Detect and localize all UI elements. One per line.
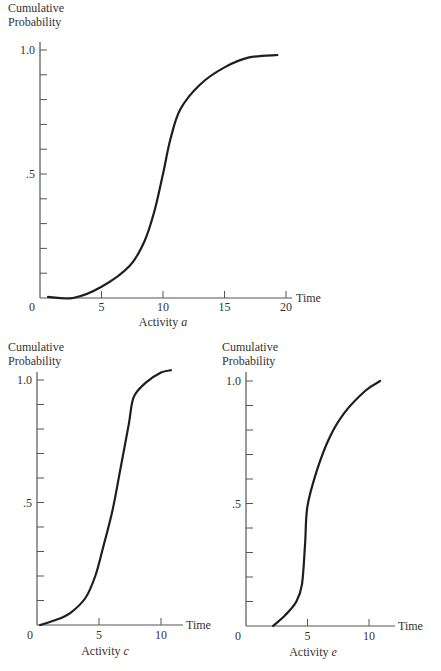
y-tick-label: 1.0 bbox=[17, 373, 32, 387]
cdf-curve bbox=[40, 370, 171, 625]
x-tick-label: 5 bbox=[305, 629, 311, 643]
figure-canvas: Cumulative Probability Time Activity a .… bbox=[0, 0, 441, 671]
y-tick-label: .5 bbox=[232, 497, 241, 511]
y-axis-label-line1: Cumulative bbox=[222, 340, 278, 354]
axes: .51.00510 bbox=[226, 372, 395, 643]
x-tick-label: 20 bbox=[280, 300, 292, 314]
x-axis-label: Time bbox=[296, 291, 321, 305]
y-tick-label: 1.0 bbox=[226, 374, 241, 388]
x-tick-label: 10 bbox=[363, 629, 375, 643]
caption: Activity e bbox=[289, 645, 337, 659]
y-axis-label-line2: Probability bbox=[8, 354, 61, 368]
origin-label: 0 bbox=[27, 628, 33, 642]
axes: .51.00510 bbox=[17, 372, 183, 642]
axes: .51.005101520 bbox=[20, 42, 292, 314]
x-axis-label: Time bbox=[186, 618, 211, 632]
y-axis-label-line1: Cumulative bbox=[8, 1, 64, 15]
origin-label: 0 bbox=[29, 300, 35, 314]
origin-label: 0 bbox=[235, 629, 241, 643]
x-tick-label: 5 bbox=[99, 300, 105, 314]
chart-activity-e: Cumulative Probability Time Activity e .… bbox=[222, 340, 423, 659]
x-tick-label: 10 bbox=[155, 628, 167, 642]
y-tick-label: .5 bbox=[26, 167, 35, 181]
y-tick-label: .5 bbox=[23, 496, 32, 510]
x-tick-label: 15 bbox=[219, 300, 231, 314]
chart-activity-a: Cumulative Probability Time Activity a .… bbox=[8, 1, 321, 329]
x-tick-label: 5 bbox=[96, 628, 102, 642]
caption: Activity a bbox=[139, 315, 187, 329]
y-axis-label-line2: Probability bbox=[8, 15, 61, 29]
y-tick-label: 1.0 bbox=[20, 43, 35, 57]
chart-activity-c: Cumulative Probability Time Activity c .… bbox=[8, 340, 211, 658]
x-tick-label: 10 bbox=[157, 300, 169, 314]
y-axis-label-line1: Cumulative bbox=[8, 340, 64, 354]
caption: Activity c bbox=[81, 644, 129, 658]
cdf-curve bbox=[273, 381, 380, 626]
cdf-curve bbox=[48, 55, 277, 299]
y-axis-label-line2: Probability bbox=[222, 354, 275, 368]
x-axis-label: Time bbox=[398, 619, 423, 633]
